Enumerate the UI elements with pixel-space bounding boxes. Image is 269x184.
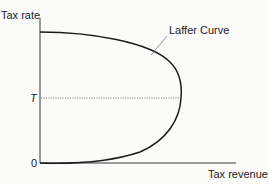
t-marker-label: T (30, 93, 37, 104)
y-axis-label: Tax rate (1, 10, 40, 21)
curve-label: Laffer Curve (169, 25, 229, 36)
x-axis-label: Tax revenue (208, 169, 268, 180)
origin-label: 0 (31, 158, 37, 169)
curve-leader-line (151, 36, 167, 55)
